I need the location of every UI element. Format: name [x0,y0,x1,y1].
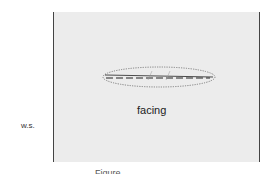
hatch-mark [166,71,170,80]
slit-diagram [0,0,272,174]
slit-solid-line [105,75,213,77]
figure-caption: Figure … [95,168,132,174]
ws-label: w.s. [21,121,35,130]
facing-label: facing [137,104,166,116]
